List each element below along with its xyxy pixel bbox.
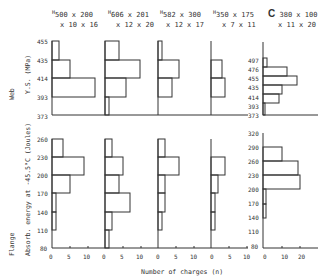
histogram-plot [0, 0, 328, 280]
